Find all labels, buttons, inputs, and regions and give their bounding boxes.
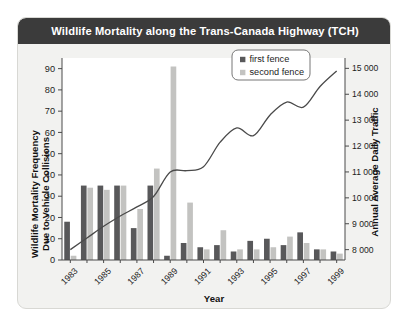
y-axis-left-title-line1: Wildlife Mortality Frequency [29,129,40,258]
x-tick-label: 1985 [92,266,113,287]
bar-second-fence [71,256,77,260]
x-axis-title: Year [204,293,225,304]
bar-first-fence [197,247,203,260]
plot-area: 0102030405060708090 8 0009 00010 00011 0… [18,44,391,309]
x-tick-label: 1995 [259,266,280,287]
x-tick-label: 1993 [225,266,246,287]
bar-first-fence [281,245,287,260]
bar-first-fence [331,251,337,260]
bar-second-fence [254,249,260,260]
bar-second-fence [237,249,243,260]
x-tick-label: 1989 [159,266,180,287]
x-tick-label: 1987 [125,266,146,287]
bar-second-fence [270,247,276,260]
legend-label: second fence [250,67,305,77]
y-axis-left-title-line2: Due to Vehicle Collisions [40,137,51,251]
bar-second-fence [187,203,193,260]
x-tick-label: 1983 [59,266,80,287]
bar-second-fence [154,169,160,260]
bar-second-fence [287,237,293,260]
bar-second-fence [221,230,227,260]
svg-text:60: 60 [45,128,55,138]
bar-second-fence [87,188,93,260]
svg-text:90: 90 [45,64,55,74]
legend-swatch [240,70,245,75]
chart-legend: first fencesecond fence [232,50,310,80]
bar-first-fence [247,241,253,260]
x-tick-label: 1991 [192,266,213,287]
bar-first-fence [231,251,237,260]
chart-title: Wildlife Mortality along the Trans-Canad… [18,18,391,44]
chart-figure: Wildlife Mortality along the Trans-Canad… [17,17,391,309]
bar-first-fence [181,243,187,260]
bar-first-fence [147,186,153,260]
bar-second-fence [320,249,326,260]
x-tick-label: 1999 [325,266,346,287]
svg-text:70: 70 [45,106,55,116]
legend-swatch [240,57,245,62]
bar-first-fence [98,186,104,260]
bar-second-fence [337,254,343,260]
bar-first-fence [131,228,137,260]
x-tick-label: 1997 [292,266,313,287]
bar-first-fence [64,222,70,260]
bar-second-fence [204,249,210,260]
chart-svg: 0102030405060708090 8 0009 00010 00011 0… [18,44,391,309]
svg-text:80: 80 [45,85,55,95]
bar-first-fence [314,249,320,260]
bar-first-fence [164,256,170,260]
bar-second-fence [304,243,310,260]
bar-first-fence [214,245,220,260]
svg-text:0: 0 [50,255,55,265]
bar-first-fence [297,232,303,260]
svg-text:15 000: 15 000 [352,63,379,73]
legend-label: first fence [250,54,290,64]
svg-text:14 000: 14 000 [352,89,379,99]
bar-second-fence [137,209,143,260]
bar-second-fence [171,67,177,260]
bar-first-fence [264,239,270,260]
bar-first-fence [81,186,87,260]
bar-second-fence [121,186,127,260]
bar-first-fence [114,186,120,260]
svg-text:8 000: 8 000 [352,245,374,255]
x-axis-ticks: 198319851987198919911993199519971999 [59,260,346,287]
y-axis-right-title: Annual Average Daily Traffic [369,107,380,237]
